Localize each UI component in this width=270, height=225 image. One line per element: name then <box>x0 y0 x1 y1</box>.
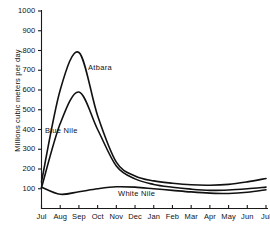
y-tick-label: 800 <box>0 47 36 55</box>
curve-blue-nile <box>42 92 267 190</box>
y-tick-label: 500 <box>0 106 36 114</box>
x-tick-label: Jul <box>255 213 270 221</box>
y-tick-label: 900 <box>0 27 36 35</box>
y-tick-label: 1000 <box>0 7 36 15</box>
y-tick-label: 400 <box>0 126 36 134</box>
series-label-blue-nile: Blue Nile <box>45 127 78 135</box>
series-label-atbara: Atbara <box>88 64 112 72</box>
y-tick-label: 600 <box>0 86 36 94</box>
y-tick-label: 100 <box>0 185 36 193</box>
chart-root: Millions cubic meters per day 1002003004… <box>0 0 270 225</box>
data-curves <box>42 52 267 195</box>
y-tick-label: 700 <box>0 66 36 74</box>
y-tick-label: 300 <box>0 145 36 153</box>
series-label-white-nile: White Nile <box>118 190 155 198</box>
curve-atbara <box>42 52 267 185</box>
y-tick-label: 200 <box>0 165 36 173</box>
